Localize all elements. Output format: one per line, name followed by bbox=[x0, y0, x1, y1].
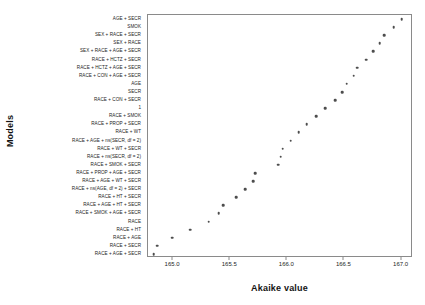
data-points-layer bbox=[148, 15, 411, 256]
y-axis-tick-label: RACE + HCTZ + AGE + SECR bbox=[77, 64, 141, 69]
x-axis-label: Akaike value bbox=[147, 283, 412, 293]
data-point bbox=[341, 91, 344, 94]
data-point bbox=[372, 50, 375, 53]
x-axis-tick-mark bbox=[229, 257, 230, 260]
y-axis-tick-label: SEX + RACE + AGE + SECR bbox=[80, 48, 141, 53]
data-point bbox=[356, 66, 359, 69]
data-point bbox=[334, 99, 337, 102]
y-axis-tick-label: RACE + ns(AGE, df = 2) + SECR bbox=[72, 186, 141, 191]
x-axis-tick-label: 165.0 bbox=[165, 261, 180, 267]
data-point bbox=[156, 245, 159, 248]
data-point bbox=[281, 147, 284, 150]
y-axis-tick-label: RACE + ns(SECR, df = 2) bbox=[87, 153, 141, 158]
x-axis-tick-mark bbox=[343, 257, 344, 260]
data-point bbox=[400, 18, 403, 21]
y-axis-tick-label: RACE + CON + SECR bbox=[94, 97, 141, 102]
x-axis-tick-label: 167.0 bbox=[393, 261, 408, 267]
y-axis-tick-label: AGE bbox=[131, 80, 141, 85]
y-axis-tick-label: RACE bbox=[128, 218, 141, 223]
y-axis-tick-label: RACE + SMOK + AGE + SECR bbox=[76, 210, 141, 215]
y-axis-tick-label: RACE + HT bbox=[116, 226, 141, 231]
y-axis-tick-label: RACE + AGE + SECR bbox=[95, 250, 141, 255]
data-point bbox=[365, 58, 368, 61]
y-axis-tick-label: SEX + RACE bbox=[113, 40, 141, 45]
data-point bbox=[383, 34, 386, 37]
x-axis-tick-label: 165.5 bbox=[222, 261, 237, 267]
data-point bbox=[254, 172, 257, 175]
data-point bbox=[277, 164, 280, 167]
y-axis-tick-label: RACE + HCTZ + SECR bbox=[92, 56, 141, 61]
x-axis-tick-mark bbox=[172, 257, 173, 260]
plot-panel bbox=[147, 14, 412, 257]
y-axis-tick-label: RACE + HT + SECR bbox=[98, 194, 141, 199]
data-point bbox=[207, 220, 210, 223]
data-point bbox=[152, 253, 155, 256]
y-axis-tick-label: RACE + CON + AGE + SECR bbox=[79, 72, 141, 77]
data-point bbox=[352, 74, 355, 77]
data-point bbox=[218, 212, 221, 215]
y-axis-tick-label: SMOK bbox=[127, 24, 141, 29]
x-axis-tick-label: 166.5 bbox=[336, 261, 351, 267]
data-point bbox=[392, 26, 395, 29]
y-axis-tick-label: RACE + PROP + SECR bbox=[91, 121, 141, 126]
data-point bbox=[297, 131, 300, 134]
y-axis-tick-label: 1 bbox=[138, 105, 141, 110]
data-point bbox=[305, 123, 308, 126]
data-point bbox=[315, 115, 318, 118]
data-point bbox=[345, 83, 348, 86]
x-axis-tick-mark bbox=[286, 257, 287, 260]
x-axis-tick-mark bbox=[400, 257, 401, 260]
data-point bbox=[235, 196, 238, 199]
y-axis-tick-label: RACE + AGE bbox=[113, 234, 141, 239]
data-point bbox=[222, 204, 225, 207]
y-axis-tick-label: RACE + SECR bbox=[110, 242, 141, 247]
data-point bbox=[189, 228, 192, 231]
y-axis-tick-label: SEX + RACE + SECR bbox=[95, 32, 141, 37]
y-axis-tick-label: RACE + SMOK + SECR bbox=[91, 161, 141, 166]
y-axis-tick-label: RACE + PROP + AGE + SECR bbox=[76, 169, 141, 174]
y-axis-tick-label: RACE + AGE + WT + SECR bbox=[82, 178, 141, 183]
akaike-dotplot-figure: Models AGE + SECRSMOKSEX + RACE + SECRSE… bbox=[0, 0, 425, 305]
y-axis-tick-label: SECR bbox=[128, 88, 141, 93]
y-axis-tick-label: RACE + AGE + ns(SECR, df = 2) bbox=[72, 137, 141, 142]
data-point bbox=[171, 236, 174, 239]
y-axis-tick-label: RACE + AGE + HT + SECR bbox=[83, 202, 141, 207]
y-axis-tick-label: RACE + WT + SECR bbox=[97, 145, 141, 150]
y-axis-tick-label: AGE + SECR bbox=[113, 16, 141, 21]
y-axis-tick-labels: AGE + SECRSMOKSEX + RACE + SECRSEX + RAC… bbox=[8, 14, 144, 257]
data-point bbox=[244, 188, 247, 191]
data-point bbox=[379, 42, 382, 45]
data-point bbox=[279, 155, 282, 158]
y-axis-tick-label: RACE + SMOK bbox=[109, 113, 141, 118]
data-point bbox=[324, 107, 327, 110]
x-axis: 165.0165.5166.0166.5167.0 bbox=[147, 257, 412, 279]
data-point bbox=[289, 139, 292, 142]
x-axis-tick-label: 166.0 bbox=[279, 261, 294, 267]
y-axis-tick-label: RACE + WT bbox=[115, 129, 141, 134]
data-point bbox=[252, 180, 255, 183]
